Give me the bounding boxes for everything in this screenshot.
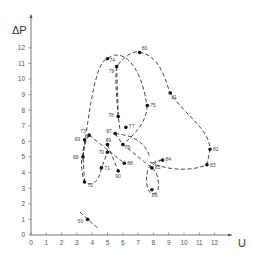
- data-point-label: 84: [166, 156, 172, 162]
- x-tick-label: 7: [136, 239, 140, 246]
- y-tick-label: 11: [18, 60, 25, 67]
- data-point-label: 69: [75, 136, 81, 142]
- trajectory-path: [82, 135, 108, 184]
- x-tick-label: 2: [60, 239, 64, 246]
- y-tick-label: 0: [21, 231, 25, 238]
- data-point-label: 87: [106, 128, 112, 134]
- data-point: [86, 218, 90, 222]
- data-point: [113, 132, 117, 136]
- trajectory-path: [115, 134, 152, 168]
- data-point-label: 89: [106, 137, 112, 143]
- x-tick-label: 8: [152, 239, 156, 246]
- data-point-label: 81: [171, 94, 177, 100]
- data-point: [100, 166, 104, 170]
- x-tick-label: 4: [90, 239, 94, 246]
- y-tick-label: 12: [18, 44, 26, 51]
- x-tick-label: 3: [75, 239, 79, 246]
- y-tick-label: 4: [21, 169, 25, 176]
- y-axis-arrow-icon: [29, 14, 32, 18]
- data-point-label: 70: [99, 149, 105, 155]
- trajectory-path: [83, 55, 147, 157]
- data-point-label: 88: [127, 160, 133, 166]
- trajectory-path: [117, 67, 120, 130]
- data-point-label: 82: [213, 146, 219, 152]
- data-points: 5068697071727374757677787980818283848586…: [73, 45, 219, 224]
- y-tick-label: 5: [21, 153, 25, 160]
- y-tick-label: 6: [21, 138, 25, 145]
- data-point: [106, 143, 110, 147]
- y-tick-label: 7: [21, 122, 25, 129]
- data-point: [123, 161, 127, 165]
- x-tick-label: 1: [44, 239, 48, 246]
- data-point-label: 71: [104, 165, 110, 171]
- data-point: [81, 155, 85, 159]
- x-axis-label: U: [238, 237, 246, 249]
- data-point-label: 90: [115, 173, 121, 179]
- x-axis-arrow-icon: [228, 233, 232, 236]
- data-point-label: 78: [108, 112, 114, 118]
- data-point: [116, 115, 120, 119]
- x-tick-label: 0: [29, 239, 33, 246]
- y-tick-label: 2: [21, 200, 25, 207]
- y-tick-label: 8: [21, 107, 25, 114]
- data-point: [145, 104, 149, 108]
- data-point-label: 50: [78, 218, 84, 224]
- data-point: [83, 180, 87, 184]
- data-point-label: 74: [110, 57, 116, 63]
- data-point: [150, 166, 154, 170]
- data-point-label: 76: [125, 144, 131, 150]
- data-point: [115, 65, 119, 69]
- x-tick-label: 5: [106, 239, 110, 246]
- trajectory-path: [116, 52, 210, 169]
- trajectory-path: [115, 134, 150, 158]
- data-point: [124, 126, 128, 130]
- axes: 01234567891011120123456789101112: [18, 14, 232, 246]
- data-point-label: 75: [150, 102, 156, 108]
- data-point: [208, 147, 212, 151]
- y-tick-label: 3: [21, 185, 25, 192]
- data-point: [106, 151, 110, 155]
- y-axis-label: ΔP: [12, 24, 27, 36]
- data-point-label: 72: [88, 182, 94, 188]
- x-tick-label: 12: [211, 239, 219, 246]
- data-point-label: 86: [152, 192, 158, 198]
- data-point-label: 73: [80, 128, 86, 134]
- data-point-label: 83: [210, 162, 216, 168]
- y-tick-label: 10: [18, 75, 26, 82]
- data-point: [161, 158, 165, 162]
- x-tick-label: 11: [196, 239, 203, 246]
- data-point: [205, 163, 209, 167]
- trajectory-curves: [80, 52, 210, 229]
- x-tick-label: 6: [121, 239, 125, 246]
- data-point-label: 68: [73, 154, 79, 160]
- data-point-label: 79: [109, 68, 115, 74]
- data-point-label: 80: [142, 45, 148, 51]
- y-tick-label: 9: [21, 91, 25, 98]
- y-tick-label: 1: [21, 216, 25, 223]
- data-point: [87, 133, 91, 137]
- data-point-label: 77: [129, 123, 135, 129]
- x-tick-label: 10: [180, 239, 188, 246]
- x-tick-label: 9: [167, 239, 171, 246]
- data-point: [83, 138, 87, 142]
- phase-trajectory-chart: 01234567891011120123456789101112 5068697…: [0, 0, 260, 257]
- data-point-label: 85: [155, 164, 161, 170]
